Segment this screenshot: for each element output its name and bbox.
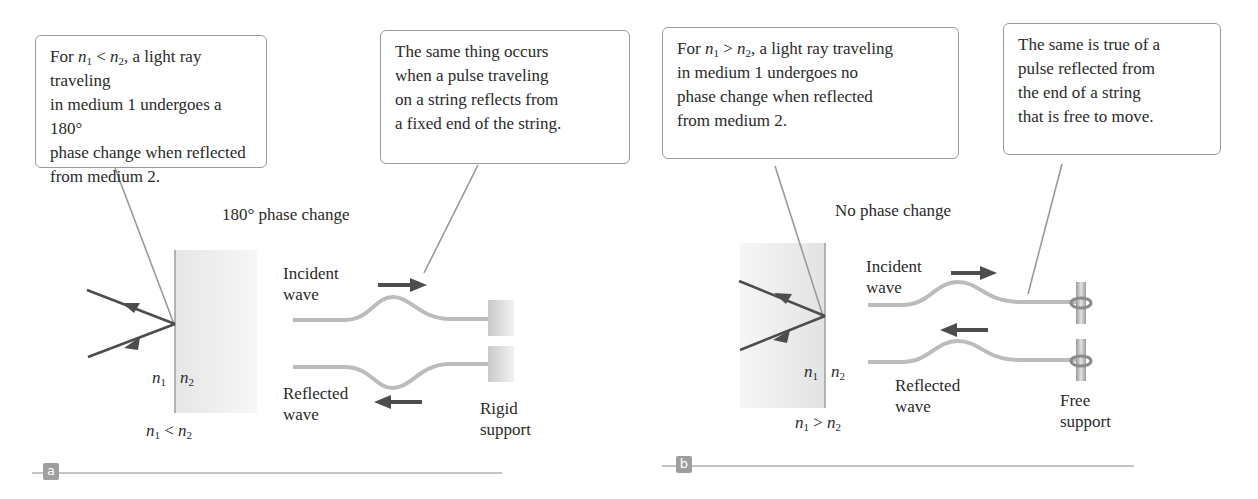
callout-line: from medium 2. [677,109,946,133]
callout-string-free: The same is true of a pulse reflected fr… [1003,23,1221,155]
callout-line: The same thing occurs [395,40,617,64]
panel-divider [32,472,502,474]
callout-line: the end of a string [1018,81,1208,105]
callout-line: The same is true of a [1018,33,1208,57]
free-support-post-bottom [1076,339,1086,381]
incident-arrow-head [410,278,427,292]
n2-label: n2 [180,367,194,388]
rigid-support-label: Rigid support [480,398,531,440]
panel-tag-b: b [676,456,692,473]
free-support-post-top [1076,282,1086,324]
panel-a: For n1 < n2, a light ray traveling in me… [0,0,640,499]
callout-light-ray: For n1 < n2, a light ray traveling in me… [35,35,267,168]
incident-wave-label: Incident wave [866,256,922,298]
condition-label: n1 > n2 [795,412,841,433]
panel-b: For n1 > n2, a light ray traveling in me… [640,0,1258,499]
callout-pointer [1028,164,1062,294]
reflected-wave-label: Reflected wave [283,383,348,425]
medium-1-block [740,243,825,408]
n2-label: n2 [831,361,845,382]
panel-tag-a: a [43,463,59,480]
callout-string-fixed: The same thing occurs when a pulse trave… [380,30,630,164]
panel-divider [662,465,1134,467]
callout-line: For n1 < n2, a light ray traveling [50,45,254,93]
reflected-wave-label: Reflected wave [895,375,960,417]
medium-2-block [175,250,257,413]
n1-label: n1 [152,367,166,388]
reflected-pulse-string [868,341,1080,362]
free-support-label: Free support [1060,390,1111,432]
phase-change-label: No phase change [835,200,951,221]
reflected-arrow-head [940,323,957,337]
callout-light-ray: For n1 > n2, a light ray traveling in me… [662,27,959,159]
rigid-support-bottom [488,346,514,382]
incident-ray [88,324,175,357]
incident-wave-label: Incident wave [283,263,339,305]
phase-change-label: 180° phase change [222,204,350,225]
callout-line: phase change when reflected [677,85,946,109]
callout-line: on a string reflects from [395,88,617,112]
callout-pointer [115,168,174,324]
callout-line: that is free to move. [1018,105,1208,129]
callout-pointer [424,165,478,273]
callout-line: in medium 1 undergoes no [677,61,946,85]
rigid-support-top [488,300,514,336]
callout-line: when a pulse traveling [395,64,617,88]
ray-arrowhead [122,303,140,313]
callout-line: phase change when reflected [50,141,254,165]
condition-label: n1 < n2 [146,420,192,441]
callout-line: in medium 1 undergoes a 180° [50,93,254,141]
reflected-arrow-head [374,395,391,409]
callout-line: For n1 > n2, a light ray traveling [677,37,946,61]
callout-line: from medium 2. [50,165,254,189]
n1-label: n1 [804,361,818,382]
callout-line: pulse reflected from [1018,57,1208,81]
callout-line: a fixed end of the string. [395,112,617,136]
incident-arrow-head [980,266,997,280]
